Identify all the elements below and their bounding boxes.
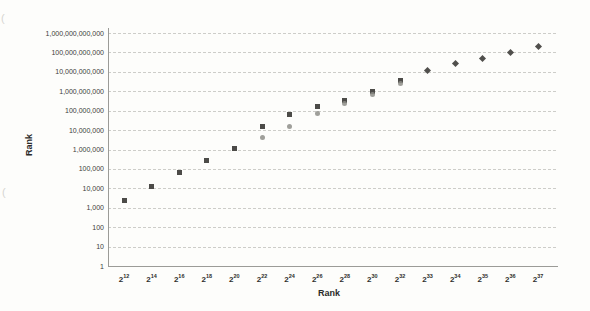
x-axis-tick-label: 232 xyxy=(387,274,413,284)
x-axis-tick-label: 218 xyxy=(194,274,220,284)
scanned-chart-figure: ( ( Rank Rank 1101001,00010,000100,0001,… xyxy=(0,0,590,311)
x-axis-tick-label: 212 xyxy=(111,274,137,284)
x-axis-tick-label: 235 xyxy=(470,274,496,284)
y-gridline xyxy=(108,247,556,248)
y-axis-tick-label: 10,000 xyxy=(32,185,104,192)
y-gridline xyxy=(108,208,556,209)
y-axis-tick-label: 10,000,000,000 xyxy=(32,68,104,75)
x-axis-tick-label: 237 xyxy=(525,274,551,284)
x-axis-tick-label: 214 xyxy=(139,274,165,284)
data-point-dark-squares xyxy=(260,124,265,129)
y-axis-tick-label: 100,000,000,000 xyxy=(32,49,104,56)
data-point-dark-squares xyxy=(287,112,292,117)
data-point-dark-diamonds xyxy=(534,43,541,50)
x-axis-tick-label: 216 xyxy=(166,274,192,284)
x-axis-tick-label: 234 xyxy=(442,274,468,284)
data-point-gray-circles xyxy=(398,81,403,86)
x-axis-tick-label: 228 xyxy=(332,274,358,284)
data-point-gray-circles xyxy=(342,101,347,106)
data-point-gray-circles xyxy=(315,111,320,116)
y-gridline xyxy=(108,72,556,73)
data-point-dark-diamonds xyxy=(452,60,459,67)
data-point-dark-squares xyxy=(315,104,320,109)
y-axis-tick-label: 1 xyxy=(32,263,104,270)
x-axis-line xyxy=(108,266,558,267)
y-axis-tick-label: 1,000 xyxy=(32,204,104,211)
y-gridline xyxy=(108,150,556,151)
data-point-gray-circles xyxy=(370,92,375,97)
data-point-gray-circles xyxy=(260,135,265,140)
data-point-dark-squares xyxy=(122,198,127,203)
y-axis-tick-label: 10,000,000 xyxy=(32,127,104,134)
y-gridline xyxy=(108,188,556,189)
y-gridline xyxy=(108,91,556,92)
y-axis-tick-label: 1,000,000 xyxy=(32,146,104,153)
x-axis-tick-label: 220 xyxy=(221,274,247,284)
y-gridline xyxy=(108,33,556,34)
plot-area: 1101001,00010,000100,0001,000,00010,000,… xyxy=(0,0,590,311)
y-axis-tick-label: 1,000,000,000,000 xyxy=(32,30,104,37)
data-point-dark-squares xyxy=(232,146,237,151)
y-axis-tick-label: 10 xyxy=(32,243,104,250)
y-gridline xyxy=(108,227,556,228)
y-axis-line xyxy=(108,28,109,267)
y-gridline xyxy=(108,130,556,131)
data-point-dark-diamonds xyxy=(507,49,514,56)
y-axis-tick-label: 1,000,000,000 xyxy=(32,88,104,95)
x-axis-tick-label: 233 xyxy=(415,274,441,284)
x-axis-tick-label: 230 xyxy=(359,274,385,284)
x-axis-tick-label: 236 xyxy=(497,274,523,284)
y-axis-tick-label: 100,000,000 xyxy=(32,107,104,114)
data-point-gray-circles xyxy=(287,124,292,129)
y-axis-tick-label: 100,000 xyxy=(32,165,104,172)
y-axis-tick-label: 100 xyxy=(32,224,104,231)
y-gridline xyxy=(108,111,556,112)
data-point-dark-squares xyxy=(177,170,182,175)
data-point-dark-squares xyxy=(149,184,154,189)
y-gridline xyxy=(108,169,556,170)
y-gridline xyxy=(108,52,556,53)
x-axis-tick-label: 226 xyxy=(304,274,330,284)
x-axis-tick-label: 224 xyxy=(277,274,303,284)
x-axis-tick-label: 222 xyxy=(249,274,275,284)
data-point-dark-diamonds xyxy=(479,55,486,62)
data-point-dark-squares xyxy=(204,158,209,163)
